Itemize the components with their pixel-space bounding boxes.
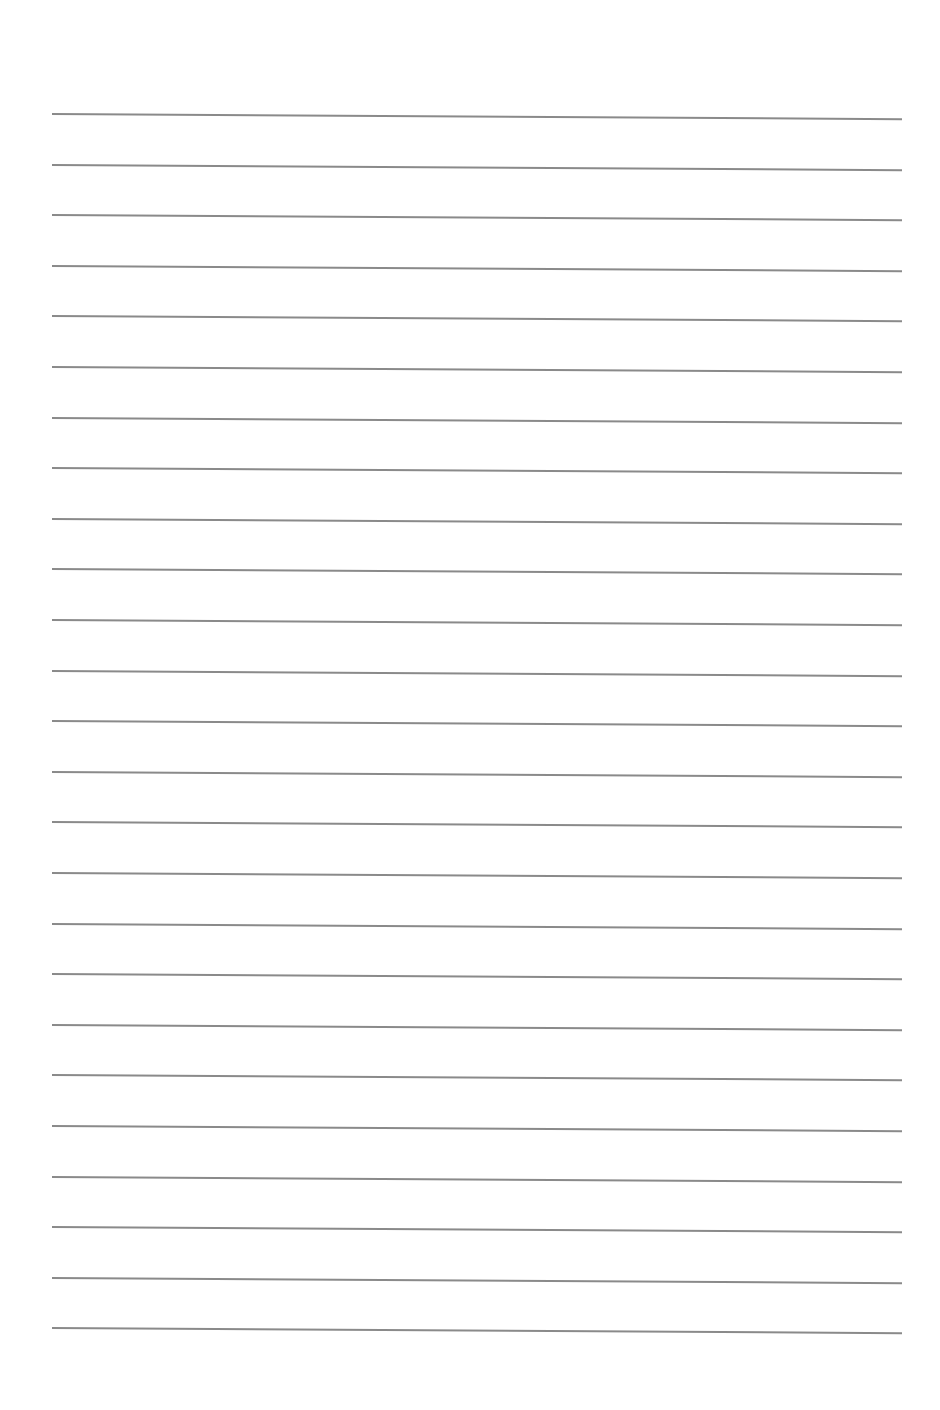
ruled-line <box>52 214 902 221</box>
ruled-line <box>52 923 902 930</box>
lined-paper-page <box>0 0 940 1410</box>
ruled-line <box>52 771 902 778</box>
ruled-line <box>52 1226 902 1233</box>
ruled-line <box>52 164 902 171</box>
ruled-line <box>52 315 902 322</box>
ruled-line <box>52 872 902 879</box>
ruled-line <box>52 417 902 424</box>
ruled-line <box>52 568 902 575</box>
ruled-line <box>52 366 902 373</box>
ruled-line <box>52 619 902 626</box>
ruled-line <box>52 265 902 272</box>
ruled-line <box>52 518 902 525</box>
ruled-line <box>52 973 902 980</box>
ruled-line <box>52 1074 902 1081</box>
ruled-line <box>52 670 902 677</box>
ruled-line <box>52 1125 902 1132</box>
ruled-line <box>52 821 902 828</box>
ruled-line <box>52 1024 902 1031</box>
ruled-line <box>52 113 902 120</box>
ruled-line <box>52 1176 902 1183</box>
ruled-line <box>52 467 902 474</box>
ruled-line <box>52 1327 902 1334</box>
ruled-line <box>52 1277 902 1284</box>
ruled-line <box>52 720 902 727</box>
